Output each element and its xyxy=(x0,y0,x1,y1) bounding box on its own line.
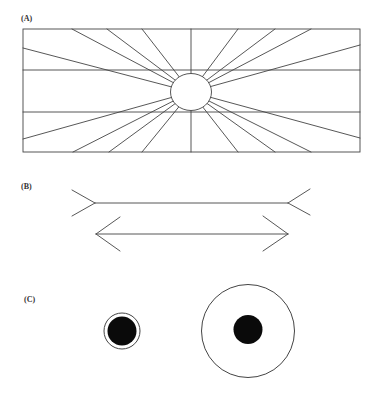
center-circle xyxy=(171,74,212,111)
fin xyxy=(72,203,95,216)
radial-line xyxy=(191,45,360,92)
fin xyxy=(288,203,310,215)
arrowhead xyxy=(96,234,120,251)
arrowhead xyxy=(96,217,120,234)
small-inner-disk xyxy=(108,317,137,346)
arrowhead xyxy=(263,234,288,251)
fin xyxy=(72,190,95,203)
illusions-figure xyxy=(0,0,375,394)
radial-line xyxy=(23,92,191,139)
fin xyxy=(288,189,310,203)
large-inner-disk xyxy=(234,315,263,344)
muller-lyer-panel xyxy=(72,189,310,251)
radial-line xyxy=(191,92,360,138)
hering-illusion-panel xyxy=(23,29,360,152)
delboeuf-panel xyxy=(104,285,295,378)
arrowhead xyxy=(263,216,288,234)
